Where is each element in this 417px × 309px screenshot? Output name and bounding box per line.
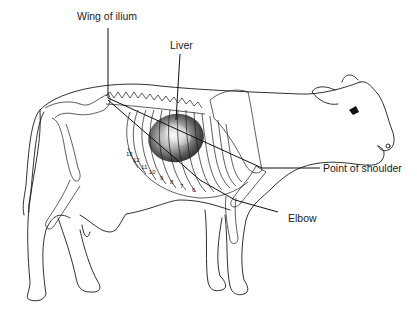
label-elbow: Elbow	[288, 213, 317, 224]
svg-text:10: 10	[149, 169, 156, 175]
scapula	[210, 90, 262, 173]
svg-text:7: 7	[180, 183, 184, 189]
svg-text:6: 6	[192, 187, 196, 193]
cow-illustration: 13 12 11 10 9 8 7 6	[0, 0, 417, 309]
leader-lines	[108, 28, 320, 212]
svg-text:11: 11	[141, 164, 148, 170]
label-liver: Liver	[170, 40, 193, 51]
fore-skeleton	[225, 166, 266, 244]
hind-skeleton	[45, 94, 110, 229]
leader-point-of-shoulder	[108, 98, 320, 168]
label-point-of-shoulder: Point of shoulder	[323, 163, 402, 174]
label-wing-of-ilium: Wing of ilium	[77, 11, 137, 22]
svg-text:12: 12	[133, 157, 140, 163]
cow-anatomy-diagram: 13 12 11 10 9 8 7 6 Wing of ilium Liver …	[0, 0, 417, 309]
